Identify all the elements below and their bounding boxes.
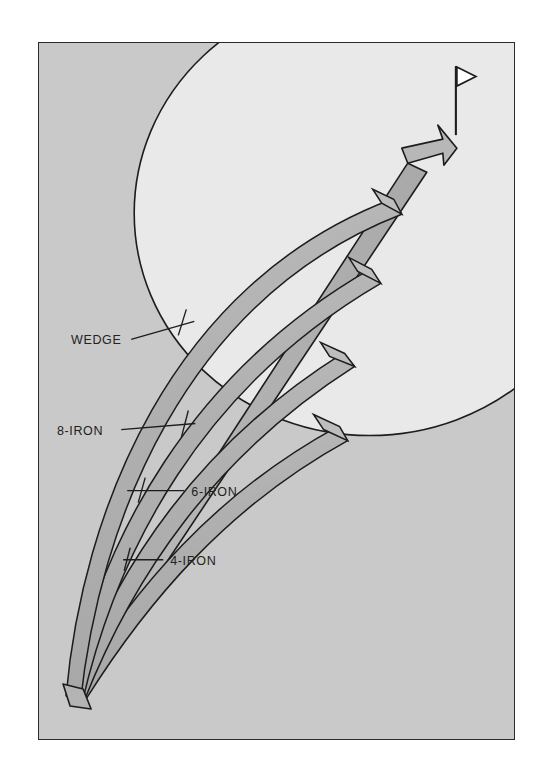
label-6-iron: 6-IRON: [191, 485, 237, 499]
figure-page: WEDGE 8-IRON 6-IRON 4-IRON: [0, 0, 545, 781]
label-wedge: WEDGE: [71, 333, 121, 347]
figure-frame: WEDGE 8-IRON 6-IRON 4-IRON: [38, 42, 515, 740]
label-4-iron: 4-IRON: [170, 554, 216, 568]
label-8-iron: 8-IRON: [57, 424, 103, 438]
golf-trajectory-diagram: WEDGE 8-IRON 6-IRON 4-IRON: [39, 43, 514, 739]
